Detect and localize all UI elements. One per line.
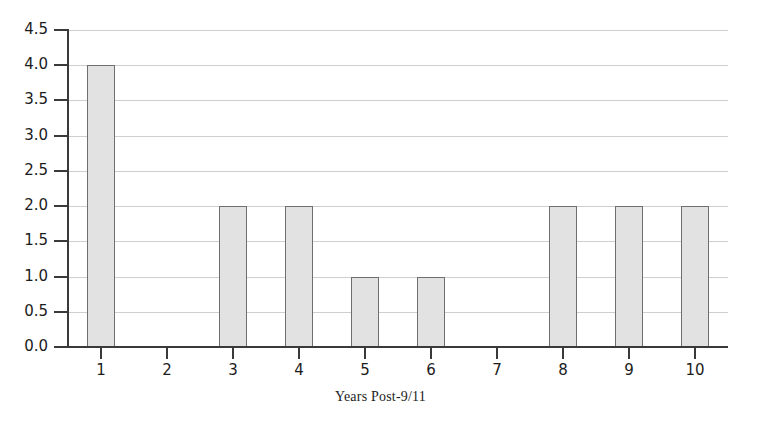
y-axis-tick-label: 3.5 [2,92,48,107]
gridline [68,100,728,101]
plot-area [68,30,728,347]
y-axis-tick [54,64,67,66]
x-axis-tick [562,348,564,359]
x-axis-tick-label: 7 [467,363,527,378]
gridline [68,65,728,66]
y-axis-tick [54,276,67,278]
bar [219,206,247,347]
bar [351,277,379,347]
gridline [68,136,728,137]
y-axis-line [67,29,69,348]
y-axis-tick [54,99,67,101]
y-axis-tick [54,311,67,313]
x-axis-tick [628,348,630,359]
bar [615,206,643,347]
y-axis-tick-label: 2.0 [2,198,48,213]
y-axis-tick-label: 1.5 [2,233,48,248]
y-axis-tick [54,240,67,242]
x-axis-tick [166,348,168,359]
x-axis-tick-label: 5 [335,363,395,378]
x-axis-tick [100,348,102,359]
x-axis-tick [232,348,234,359]
y-axis-tick-label: 3.0 [2,128,48,143]
bar [549,206,577,347]
x-axis-tick-label: 6 [401,363,461,378]
y-axis-tick-label: 4.5 [2,22,48,37]
gridline [68,30,728,31]
x-axis-tick [694,348,696,359]
x-axis-tick-label: 3 [203,363,263,378]
y-axis-tick-label: 1.0 [2,269,48,284]
x-axis-tick [298,348,300,359]
y-axis-tick [54,135,67,137]
bar [681,206,709,347]
x-axis-tick-label: 9 [599,363,659,378]
y-axis-tick-label: 0.5 [2,304,48,319]
bar [417,277,445,347]
x-axis-tick-label: 10 [665,363,725,378]
x-axis-title: Years Post-9/11 [0,389,761,405]
bar-chart: 0.00.51.01.52.02.53.03.54.04.5 123456789… [0,0,761,432]
y-axis-tick [54,205,67,207]
x-axis-tick [364,348,366,359]
x-axis-tick-label: 4 [269,363,329,378]
x-axis-tick [430,348,432,359]
bar [87,65,115,347]
y-axis-tick [54,29,67,31]
gridline [68,171,728,172]
y-axis-tick [54,346,67,348]
x-axis-tick [496,348,498,359]
y-axis-tick [54,170,67,172]
x-axis-tick-label: 1 [71,363,131,378]
y-axis-tick-label: 4.0 [2,57,48,72]
x-axis-tick-label: 2 [137,363,197,378]
y-axis-tick-label: 2.5 [2,163,48,178]
x-axis-tick-label: 8 [533,363,593,378]
y-axis-tick-label: 0.0 [2,339,48,354]
bar [285,206,313,347]
